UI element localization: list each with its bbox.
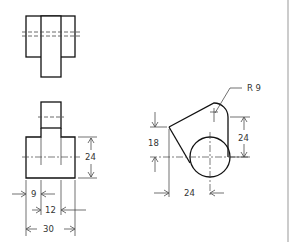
front-view-lower-block — [26, 128, 75, 178]
side-view-profile — [169, 103, 228, 157]
dim-front-total-width: 30 — [43, 224, 54, 234]
front-view: 24 9 12 30 — [12, 102, 97, 236]
radius-leader — [215, 88, 242, 113]
technical-drawing: 24 9 12 30 R 9 24 — [0, 0, 291, 242]
dim-side-left-height: 18 — [148, 138, 159, 148]
dim-front-center-width: 12 — [45, 205, 56, 215]
top-view-center-column — [41, 16, 61, 77]
dim-front-left-offset: 9 — [31, 189, 36, 199]
dim-side-radius: R 9 — [247, 83, 261, 93]
dim-side-vertical: 24 — [238, 133, 249, 143]
dim-front-height: 24 — [85, 152, 96, 162]
dim-side-horizontal: 24 — [184, 188, 195, 198]
front-view-upper-block — [41, 102, 61, 128]
side-view: R 9 24 18 24 — [148, 83, 261, 198]
side-view-tangent-line — [169, 127, 190, 163]
top-view — [22, 16, 80, 77]
